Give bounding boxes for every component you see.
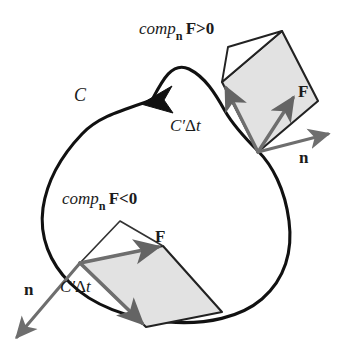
normal-vector-label-right: n	[299, 149, 308, 166]
comp-positive-relation: >0	[196, 19, 214, 38]
force-vector-label-top: F	[298, 83, 308, 100]
diagram-canvas	[0, 0, 345, 356]
lower-flux-construction	[17, 221, 222, 337]
c-prime-delta-t-bottom: C′Δt	[60, 278, 91, 295]
comp-negative-prefix: comp	[62, 189, 99, 208]
comp-positive-field: F	[186, 19, 196, 38]
lower-normal-vector	[17, 263, 80, 337]
comp-positive-label: compnF>0	[139, 20, 214, 41]
upper-flux-construction	[222, 31, 328, 152]
comp-negative-field: F	[109, 189, 119, 208]
comp-positive-prefix: comp	[139, 19, 176, 38]
comp-negative-subscript: n	[99, 199, 106, 213]
cdt-bottom-variable: t	[86, 277, 91, 296]
normal-vector-label-left: n	[24, 281, 33, 298]
comp-negative-relation: <0	[119, 189, 137, 208]
cdt-bottom-symbol: C	[60, 277, 71, 296]
comp-negative-label: compnF<0	[62, 190, 137, 211]
cdt-top-delta: Δ	[185, 116, 196, 135]
c-prime-delta-t-top: C′Δt	[170, 117, 201, 134]
flux-diagram-figure: compnF>0 compnF<0 C C′Δt C′Δt F F n n	[0, 0, 345, 356]
cdt-bottom-delta: Δ	[75, 277, 86, 296]
comp-positive-subscript: n	[176, 29, 183, 43]
force-vector-label-bottom: F	[155, 228, 165, 245]
cdt-top-symbol: C	[170, 116, 181, 135]
cdt-top-variable: t	[196, 116, 201, 135]
curve-label-c: C	[74, 86, 86, 104]
